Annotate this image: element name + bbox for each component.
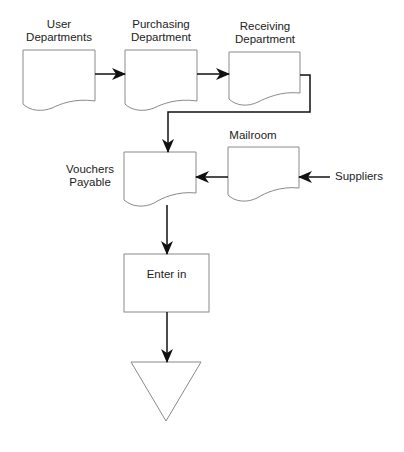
- vouchers-payable-label-line1: Vouchers: [62, 163, 118, 176]
- vouchers-payable-label-line2: Payable: [62, 176, 118, 189]
- purchasing-department-label-line1: Purchasing: [119, 18, 203, 31]
- receiving-department-label-line2: Department: [224, 33, 306, 46]
- user-departments-label-line2: Departments: [19, 31, 99, 44]
- vouchers-payable-label: Vouchers Payable: [62, 163, 118, 189]
- enter-in-label: Enter in: [124, 268, 209, 280]
- enter-in-process-box: [124, 254, 209, 312]
- vouchers-payable-document-shape: [124, 152, 196, 206]
- mailroom-document-shape: [228, 147, 299, 201]
- receiving-department-document-shape: [229, 52, 300, 105]
- user-departments-label: User Departments: [19, 18, 99, 44]
- file-storage-triangle: [131, 362, 201, 421]
- purchasing-department-label-line2: Department: [119, 31, 203, 44]
- mailroom-label: Mailroom: [228, 129, 278, 142]
- receiving-department-label: Receiving Department: [224, 20, 306, 46]
- purchasing-department-label: Purchasing Department: [119, 18, 203, 44]
- user-departments-document-shape: [23, 50, 95, 110]
- flowchart-canvas: [0, 0, 404, 452]
- suppliers-label: Suppliers: [335, 170, 387, 183]
- receiving-department-label-line1: Receiving: [224, 20, 306, 33]
- user-departments-label-line1: User: [19, 18, 99, 31]
- purchasing-department-document-shape: [125, 50, 197, 110]
